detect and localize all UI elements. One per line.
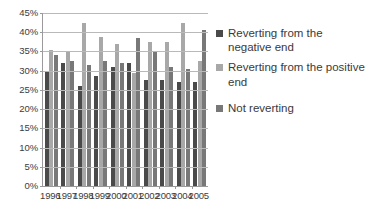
y-axis-tick bbox=[40, 148, 43, 149]
y-axis-tick-label: 30% bbox=[19, 66, 38, 76]
gridline bbox=[43, 13, 208, 14]
x-axis-tick bbox=[126, 186, 127, 189]
bar-group bbox=[160, 13, 173, 186]
x-axis-tick bbox=[192, 186, 193, 189]
x-axis-tick bbox=[76, 186, 77, 189]
bar bbox=[111, 67, 115, 186]
y-axis-tick bbox=[40, 13, 43, 14]
y-axis-tick-label: 5% bbox=[24, 162, 38, 172]
y-axis-tick bbox=[40, 51, 43, 52]
gridline bbox=[43, 128, 208, 129]
x-axis-tick-label: 2005 bbox=[189, 190, 209, 201]
bar bbox=[115, 44, 119, 186]
bar bbox=[177, 82, 181, 186]
bars-layer bbox=[43, 13, 208, 186]
bar-group bbox=[111, 13, 124, 186]
bar bbox=[82, 23, 86, 186]
bar-group bbox=[45, 13, 58, 186]
bar bbox=[78, 86, 82, 186]
y-axis-tick bbox=[40, 90, 43, 91]
legend-entry: Reverting from the positive end bbox=[216, 60, 380, 88]
y-axis-tick bbox=[40, 186, 43, 187]
bar-group bbox=[144, 13, 157, 186]
legend-swatch-icon bbox=[216, 105, 223, 112]
bar bbox=[99, 37, 103, 186]
y-axis-tick bbox=[40, 128, 43, 129]
bar-chart: 0%5%10%15%20%25%30%35%40%45% 19961997199… bbox=[0, 0, 380, 217]
y-axis-tick-label: 15% bbox=[19, 124, 38, 134]
bar-group bbox=[193, 13, 206, 186]
bar-group bbox=[61, 13, 74, 186]
y-axis-tick-label: 40% bbox=[19, 27, 38, 37]
bar bbox=[160, 80, 164, 186]
bar bbox=[165, 42, 169, 186]
legend-swatch-icon bbox=[216, 30, 223, 37]
y-axis-tick-label: 25% bbox=[19, 85, 38, 95]
bar-group bbox=[78, 13, 91, 186]
x-axis-tick bbox=[142, 186, 143, 189]
bar bbox=[181, 23, 185, 186]
gridline bbox=[43, 148, 208, 149]
x-axis-tick bbox=[93, 186, 94, 189]
y-axis-tick-label: 20% bbox=[19, 104, 38, 114]
bar bbox=[94, 76, 98, 186]
gridline bbox=[43, 51, 208, 52]
bar-group bbox=[94, 13, 107, 186]
legend-label: Reverting from the negative end bbox=[228, 26, 368, 54]
y-axis-tick bbox=[40, 167, 43, 168]
bar bbox=[169, 67, 173, 186]
gridline bbox=[43, 109, 208, 110]
legend-entry: Reverting from the negative end bbox=[216, 26, 380, 54]
y-axis-tick-label: 35% bbox=[19, 47, 38, 57]
bar bbox=[148, 42, 152, 186]
y-axis-tick-label: 10% bbox=[19, 143, 38, 153]
bar bbox=[87, 65, 91, 186]
y-axis-tick bbox=[40, 71, 43, 72]
gridline bbox=[43, 71, 208, 72]
bar bbox=[193, 82, 197, 186]
legend-label: Not reverting bbox=[228, 101, 294, 115]
bar-group bbox=[127, 13, 140, 186]
legend-swatch-icon bbox=[216, 64, 223, 71]
gridline bbox=[43, 32, 208, 33]
plot-wrapper: 0%5%10%15%20%25%30%35%40%45% 19961997199… bbox=[0, 0, 212, 217]
y-axis: 0%5%10%15%20%25%30%35%40%45% bbox=[0, 0, 40, 217]
y-axis-tick bbox=[40, 109, 43, 110]
y-axis-tick-label: 45% bbox=[19, 8, 38, 18]
y-axis-tick-label: 0% bbox=[24, 181, 38, 191]
legend-label: Reverting from the positive end bbox=[228, 60, 368, 88]
x-axis-tick bbox=[60, 186, 61, 189]
bar bbox=[136, 38, 140, 186]
plot-area bbox=[42, 13, 208, 187]
chart-legend: Reverting from the negative endReverting… bbox=[216, 26, 380, 121]
gridline bbox=[43, 167, 208, 168]
y-axis-tick bbox=[40, 32, 43, 33]
x-axis: 1996199719981999200020012002200320042005 bbox=[42, 190, 207, 210]
x-axis-tick bbox=[175, 186, 176, 189]
gridline bbox=[43, 90, 208, 91]
x-axis-tick bbox=[159, 186, 160, 189]
legend-entry: Not reverting bbox=[216, 101, 380, 115]
x-axis-tick bbox=[109, 186, 110, 189]
bar-group bbox=[177, 13, 190, 186]
bar bbox=[144, 80, 148, 186]
